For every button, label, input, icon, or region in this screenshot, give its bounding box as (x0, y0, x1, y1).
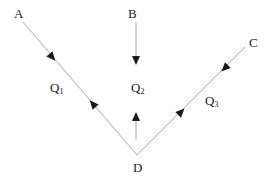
flow-label-q2: Q2 (131, 81, 144, 96)
flow-label-q3-subscript: 3 (214, 100, 218, 109)
arrow-d-up-icon (132, 112, 140, 121)
edge-a-d (23, 22, 137, 155)
node-label-c: C (249, 36, 258, 49)
node-label-d: D (133, 161, 142, 174)
node-label-a: A (14, 7, 23, 20)
flow-label-q1-main: Q (50, 80, 59, 95)
flow-label-q2-subscript: 2 (140, 87, 144, 96)
flow-label-q2-main: Q (131, 80, 140, 95)
diagram-canvas: A B C D Q1 Q2 Q3 (0, 0, 271, 180)
arrow-b-down-icon (132, 56, 140, 65)
flow-label-q3: Q3 (205, 94, 218, 109)
arrow-c-to-d-icon (219, 62, 231, 74)
arrow-d-to-c-icon (175, 106, 187, 118)
flow-label-q1-subscript: 1 (59, 87, 63, 96)
flow-label-q3-main: Q (205, 93, 214, 108)
edge-c-d (137, 47, 245, 155)
flow-label-q1: Q1 (50, 81, 63, 96)
node-label-b: B (128, 7, 137, 20)
